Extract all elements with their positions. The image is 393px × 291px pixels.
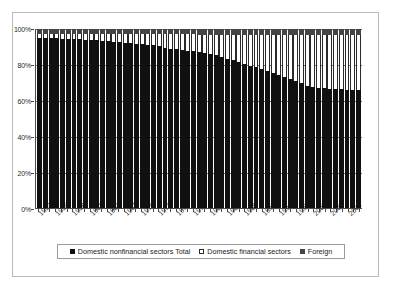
bar-column	[293, 29, 298, 208]
bar-column	[43, 29, 48, 208]
bar-segment-financial	[157, 34, 162, 46]
bar-segment-financial	[350, 35, 355, 90]
bar-segment-nonfinancial	[356, 90, 361, 208]
bar-segment-financial	[333, 35, 338, 89]
bar-column	[265, 29, 270, 208]
bar-segment-financial	[231, 35, 236, 61]
bar-column	[350, 29, 355, 208]
bar-segment-financial	[145, 34, 150, 45]
bar-column	[66, 29, 71, 208]
bar-segment-nonfinancial	[43, 38, 48, 208]
bar-segment-nonfinancial	[259, 69, 264, 208]
bar-column	[140, 29, 145, 208]
legend-swatch-icon	[199, 249, 204, 254]
bar-segment-nonfinancial	[128, 43, 133, 208]
bar-column	[339, 29, 344, 208]
bar-segment-financial	[271, 35, 276, 73]
bar-segment-nonfinancial	[37, 38, 42, 208]
bar-segment-nonfinancial	[111, 42, 116, 208]
bar-segment-financial	[123, 34, 128, 43]
bar-segment-nonfinancial	[271, 73, 276, 208]
bar-column	[276, 29, 281, 208]
bar-column	[100, 29, 105, 208]
bar-column	[248, 29, 253, 208]
y-axis-tick-label: 100%	[0, 26, 31, 33]
bar-segment-nonfinancial	[202, 53, 207, 208]
bar-column	[157, 29, 162, 208]
y-axis-tick-label: 20%	[0, 170, 31, 177]
bar-column	[219, 29, 224, 208]
bar-segment-nonfinancial	[197, 52, 202, 208]
bar-segment-nonfinancial	[89, 40, 94, 208]
bar-column	[180, 29, 185, 208]
chart-legend: Domestic nonfinancial sectors TotalDomes…	[57, 244, 345, 259]
bar-column	[89, 29, 94, 208]
bar-column	[83, 29, 88, 208]
bar-segment-nonfinancial	[345, 90, 350, 209]
bar-segment-nonfinancial	[248, 66, 253, 209]
bar-segment-financial	[327, 35, 332, 89]
bar-column	[288, 29, 293, 208]
bar-column	[134, 29, 139, 208]
bar-segment-financial	[197, 35, 202, 52]
y-axis-tick-mark	[31, 173, 34, 174]
bar-column	[356, 29, 361, 208]
legend-item[interactable]: Domestic financial sectors	[199, 247, 291, 256]
bar-segment-financial	[322, 35, 327, 89]
bar-segment-nonfinancial	[100, 41, 105, 208]
y-axis-tick-mark	[31, 101, 34, 102]
bar-column	[168, 29, 173, 208]
bar-column	[151, 29, 156, 208]
bar-segment-financial	[219, 35, 224, 57]
bar-segment-nonfinancial	[254, 67, 259, 208]
bar-column	[94, 29, 99, 208]
bar-column	[60, 29, 65, 208]
legend-item[interactable]: Foreign	[300, 247, 332, 256]
bar-segment-financial	[168, 34, 173, 49]
bar-segment-nonfinancial	[231, 60, 236, 208]
bar-segment-nonfinancial	[214, 55, 219, 208]
bar-segment-financial	[185, 34, 190, 51]
bar-segment-nonfinancial	[66, 39, 71, 208]
bar-column	[322, 29, 327, 208]
bar-column	[49, 29, 54, 208]
bar-segment-financial	[254, 35, 259, 68]
bar-segment-financial	[236, 35, 241, 62]
bar-segment-nonfinancial	[225, 59, 230, 208]
bar-segment-financial	[140, 34, 145, 45]
bar-segment-nonfinancial	[350, 90, 355, 208]
bar-segment-financial	[225, 35, 230, 59]
bar-segment-nonfinancial	[282, 77, 287, 208]
bar-segment-financial	[117, 34, 122, 42]
bar-column	[163, 29, 168, 208]
bar-column	[231, 29, 236, 208]
legend-item[interactable]: Domestic nonfinancial sectors Total	[70, 247, 191, 256]
bar-segment-nonfinancial	[163, 48, 168, 208]
bar-column	[236, 29, 241, 208]
bar-segment-nonfinancial	[288, 79, 293, 208]
y-axis: 0%20%40%60%80%100%	[0, 29, 33, 209]
bar-segment-nonfinancial	[339, 89, 344, 208]
legend-label: Domestic nonfinancial sectors Total	[78, 247, 191, 256]
bar-segment-nonfinancial	[191, 51, 196, 208]
bar-segment-nonfinancial	[299, 83, 304, 208]
bar-column	[259, 29, 264, 208]
bar-column	[208, 29, 213, 208]
bar-column	[54, 29, 59, 208]
bar-segment-financial	[208, 35, 213, 54]
bar-segment-financial	[111, 34, 116, 42]
bar-segment-nonfinancial	[276, 75, 281, 208]
bar-segment-nonfinancial	[265, 71, 270, 208]
bar-segment-nonfinancial	[117, 42, 122, 208]
bar-segment-financial	[293, 35, 298, 82]
bar-segment-financial	[316, 35, 321, 88]
bar-segment-financial	[282, 35, 287, 77]
bar-segment-financial	[259, 35, 264, 69]
bar-segment-financial	[214, 35, 219, 56]
y-axis-tick-mark	[31, 209, 34, 210]
bar-column	[77, 29, 82, 208]
bar-segment-nonfinancial	[168, 49, 173, 208]
bar-segment-financial	[305, 35, 310, 86]
bar-segment-financial	[202, 35, 207, 53]
bar-segment-financial	[180, 34, 185, 50]
